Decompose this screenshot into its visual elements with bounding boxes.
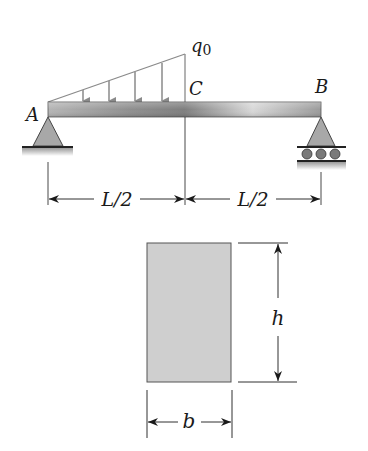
width-label-b: b bbox=[183, 409, 196, 433]
roller-support-b-icon bbox=[297, 117, 346, 170]
support-label-b: B bbox=[314, 76, 328, 97]
load-label-q: q0 bbox=[191, 35, 211, 58]
dimension-label-ac: L/2 bbox=[100, 188, 132, 210]
section-rectangle bbox=[147, 243, 231, 382]
cross-section: h b bbox=[147, 243, 297, 438]
dimension-label-cb: L/2 bbox=[236, 188, 268, 210]
load-envelope-line bbox=[48, 54, 185, 102]
distributed-load bbox=[48, 54, 185, 102]
span-dimensions: L/2 L/2 bbox=[48, 162, 321, 210]
height-label-h: h bbox=[272, 306, 285, 330]
point-label-c: C bbox=[189, 78, 203, 99]
beam-diagram: L/2 L/2 q0 C A B h b bbox=[0, 0, 368, 451]
beam bbox=[48, 102, 321, 117]
support-label-a: A bbox=[24, 104, 39, 125]
